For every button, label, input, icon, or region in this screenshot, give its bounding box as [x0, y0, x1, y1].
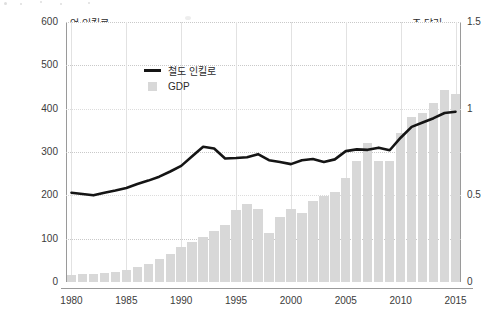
x-axis-tick-label: 1980: [49, 296, 93, 306]
y-axis-right-tick-label: 0.5: [467, 190, 486, 200]
decorative-speck: [88, 2, 90, 4]
y-axis-left-tick-label: 100: [18, 234, 58, 244]
plot-area: 철도 인킬로 GDP: [66, 22, 461, 282]
y-axis-left-tick-label: 400: [18, 104, 58, 114]
y-axis-left-tick-label: 600: [18, 17, 58, 27]
y-axis-right-tick-label: 0: [467, 277, 486, 287]
chart-canvas: 억 인킬로 조 달러 철도 인킬로 GDP 010020030040050060…: [0, 0, 486, 320]
x-axis-baseline: [61, 288, 473, 289]
legend-label-gdp: GDP: [168, 81, 190, 92]
rail-line-path: [71, 112, 455, 196]
decorative-speck: [20, 3, 22, 5]
x-axis-tick-label: 1995: [214, 296, 258, 306]
x-axis-tick-label: 2010: [379, 296, 423, 306]
y-axis-left-tick-label: 300: [18, 147, 58, 157]
chart-legend: 철도 인킬로 GDP: [144, 64, 216, 96]
x-axis-tick-label: 2000: [269, 296, 313, 306]
y-axis-left-tick-label: 500: [18, 60, 58, 70]
x-axis-tick-label: 2005: [324, 296, 368, 306]
y-axis-left-tick-label: 200: [18, 190, 58, 200]
decorative-speck: [60, 3, 62, 5]
decorative-speck: [40, 1, 42, 3]
y-axis-right-tick-label: 1: [467, 104, 486, 114]
legend-swatch-marker-icon: [148, 82, 157, 91]
x-axis-tick-label: 1985: [104, 296, 148, 306]
decorative-speck: [185, 16, 191, 20]
y-axis-right-tick-label: 1.5: [467, 17, 486, 27]
legend-label-rail: 철도 인킬로: [168, 63, 216, 78]
legend-item-gdp: GDP: [144, 80, 216, 93]
legend-line-marker-icon: [144, 69, 161, 72]
x-axis-tick-label: 2015: [434, 296, 478, 306]
legend-item-rail: 철도 인킬로: [144, 64, 216, 77]
x-axis-tick-label: 1990: [159, 296, 203, 306]
decorative-speck: [4, 2, 7, 5]
y-axis-left-tick-label: 0: [18, 277, 58, 287]
line-series-rail: [66, 22, 461, 282]
